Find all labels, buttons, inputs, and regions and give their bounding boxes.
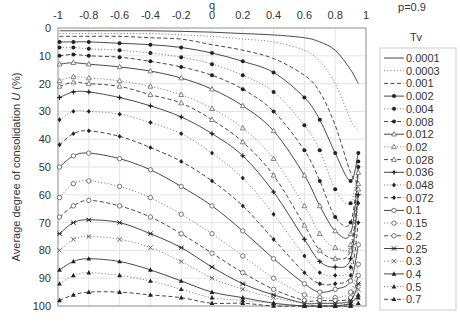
grid: [58, 28, 366, 306]
series-tv-0.001: [60, 36, 359, 183]
y-tick-label: 70: [39, 217, 51, 229]
y-axis-label: Average degree of consolidation U (%): [10, 73, 22, 262]
x-tick-label: 0.8: [328, 9, 343, 21]
legend-label: 0.004: [406, 103, 434, 115]
legend-label: 0.25: [406, 243, 427, 255]
y-tick-label: 80: [39, 244, 51, 256]
y-tick-label: 0: [45, 22, 51, 34]
y-tick-label: 100: [33, 300, 51, 312]
legend-label: 0.012: [406, 128, 434, 140]
legend-label: 0.4: [406, 268, 421, 280]
y-tick-label: 50: [39, 161, 51, 173]
legend-label: 0.002: [406, 90, 434, 102]
series-tv-0.02: [57, 74, 361, 251]
x-tick-label: 0.2: [235, 9, 250, 21]
series-tv-0.072: [58, 128, 361, 286]
y-tick-label: 90: [39, 272, 51, 284]
chart-canvas: -1-0.8-0.6-0.4-0.200.20.40.60.8101020304…: [0, 0, 460, 324]
legend-label: 0.001: [406, 77, 434, 89]
x-tick-label: -0.6: [110, 9, 129, 21]
consolidation-chart: -1-0.8-0.6-0.4-0.200.20.40.60.8101020304…: [0, 0, 460, 324]
x-axis-label: q: [209, 0, 215, 11]
x-tick-label: -0.8: [79, 9, 98, 21]
y-tick-label: 10: [39, 50, 51, 62]
series-tv-0.25: [57, 218, 361, 306]
series-tv-0.012: [57, 60, 361, 238]
legend-label: 0.028: [406, 154, 434, 166]
y-tick-label: 20: [39, 78, 51, 90]
legend-label: 0.072: [406, 192, 434, 204]
legend-label: 0.008: [406, 116, 434, 128]
series-group: [57, 31, 361, 308]
legend-title: Tv: [410, 31, 423, 43]
series-tv-0.0003: [60, 33, 359, 130]
x-tick-label: 0.6: [297, 9, 312, 21]
x-tick-label: 1: [363, 9, 369, 21]
legend-label: 0.7: [406, 293, 421, 305]
x-tick-label: -1: [53, 9, 63, 21]
legend-label: 0.02: [406, 141, 427, 153]
series-tv-0.004: [58, 45, 361, 205]
legend: Tv0.00010.00030.0010.0020.0040.0080.0120…: [380, 31, 456, 310]
y-tick-label: 40: [39, 133, 51, 145]
x-tick-label: -0.4: [141, 9, 160, 21]
series-tv-0.0001: [60, 31, 359, 84]
legend-label: 0.0003: [406, 65, 440, 77]
legend-label: 0.15: [406, 217, 427, 229]
series-tv-0.048: [58, 109, 361, 278]
series-tv-0.036: [57, 89, 361, 269]
x-tick-label: 0.4: [266, 9, 281, 21]
y-tick-label: 60: [39, 189, 51, 201]
legend-label: 0.2: [406, 230, 421, 242]
legend-label: 0.036: [406, 166, 434, 178]
legend-label: 0.1: [406, 204, 421, 216]
series-tv-0.7: [57, 290, 361, 308]
legend-label: 0.048: [406, 179, 434, 191]
legend-label: 0.5: [406, 281, 421, 293]
series-tv-0.5: [57, 270, 361, 308]
legend-label: 0.3: [406, 255, 421, 267]
legend-label: 0.0001: [406, 52, 440, 64]
series-tv-0.3: [57, 234, 360, 305]
y-tick-label: 30: [39, 105, 51, 117]
x-tick-label: -0.2: [172, 9, 191, 21]
p-annotation: p=0.9: [398, 1, 426, 13]
